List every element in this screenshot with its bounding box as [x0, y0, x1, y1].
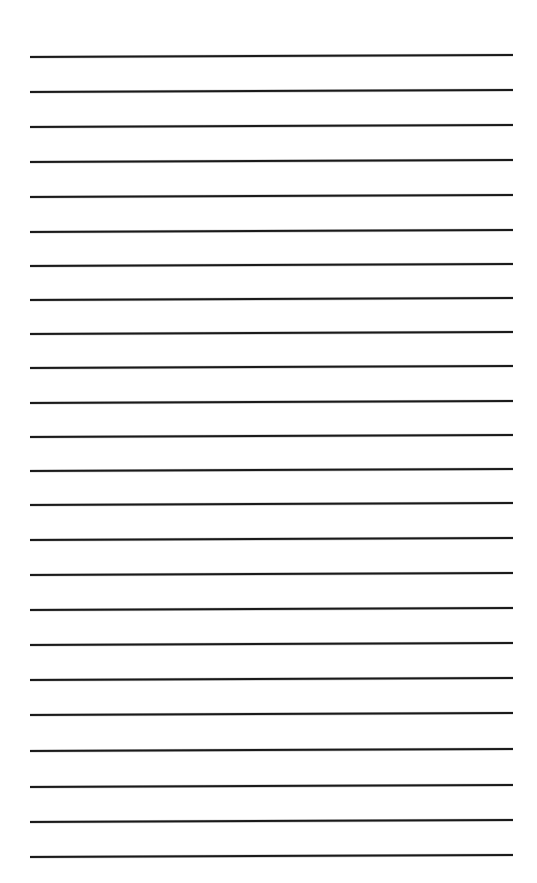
rule-lines-layer: [0, 0, 537, 883]
ruled-paper-page: Blank Ruled Paper: [0, 0, 537, 883]
paper-sheet: [0, 0, 537, 883]
